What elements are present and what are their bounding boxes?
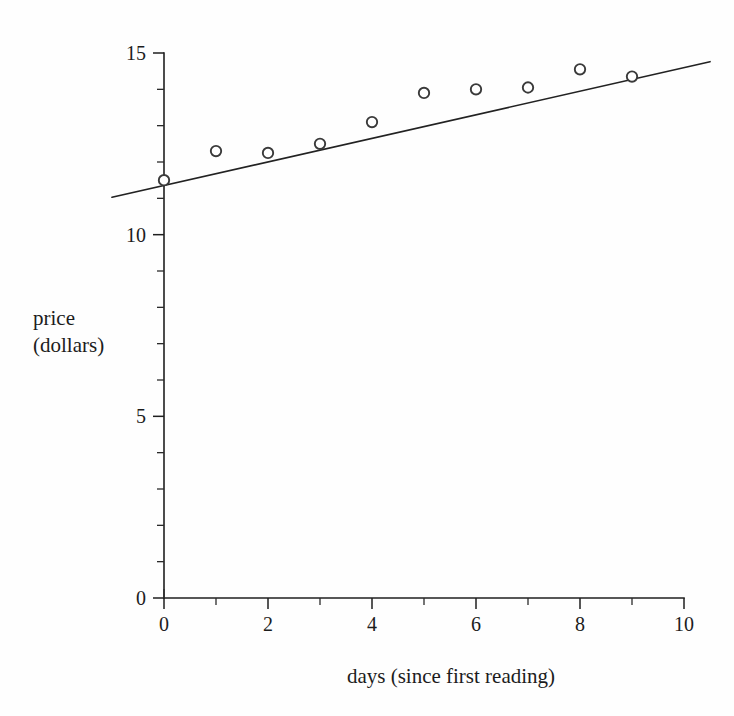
data-point: [159, 175, 169, 185]
x-axis-tick-labels: 0246810: [159, 613, 694, 635]
data-point: [523, 82, 533, 92]
data-point: [471, 84, 481, 94]
y-tick-label: 15: [126, 42, 146, 64]
data-point: [263, 148, 273, 158]
x-tick-label: 0: [159, 613, 169, 635]
scatter-plot: 051015 0246810 days (since first reading…: [0, 0, 734, 716]
y-axis-title-line-2: (dollars): [33, 333, 104, 357]
trend-line-group: [112, 62, 710, 198]
data-point: [419, 88, 429, 98]
data-point: [367, 117, 377, 127]
y-axis-tick-labels: 051015: [126, 42, 146, 609]
y-tick-label: 5: [136, 405, 146, 427]
x-axis-title: days (since first reading): [347, 664, 555, 688]
x-tick-label: 6: [471, 613, 481, 635]
x-tick-label: 2: [263, 613, 273, 635]
data-point: [315, 139, 325, 149]
axes: [164, 53, 684, 598]
x-tick-label: 10: [674, 613, 694, 635]
chart-figure: 051015 0246810 days (since first reading…: [0, 0, 734, 716]
trend-line: [112, 62, 710, 198]
y-axis-title-line-1: price: [33, 306, 75, 330]
y-tick-label: 10: [126, 224, 146, 246]
x-tick-label: 4: [367, 613, 377, 635]
data-points: [159, 64, 637, 185]
data-point: [211, 146, 221, 156]
y-axis-ticks: [153, 53, 164, 598]
x-axis-ticks: [164, 589, 684, 609]
data-point: [575, 64, 585, 74]
x-tick-label: 8: [575, 613, 585, 635]
data-point: [627, 71, 637, 81]
y-tick-label: 0: [136, 587, 146, 609]
